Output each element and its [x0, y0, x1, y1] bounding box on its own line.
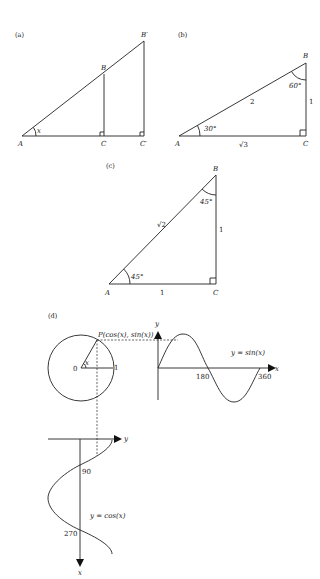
- triangle-30-60-90: [179, 63, 306, 136]
- angle-arc-b-45: [202, 189, 216, 195]
- vertex-a: A: [174, 140, 180, 148]
- angle-arc-x: [34, 128, 37, 137]
- sine-y-axis-label: y: [154, 320, 160, 328]
- vertex-c-prime: C′: [140, 140, 147, 148]
- cosine-x-axis-label: x: [78, 569, 82, 577]
- angle-b-label: 45°: [199, 198, 212, 206]
- panel-d-label: (d): [48, 312, 58, 320]
- right-angle-marker-c: [100, 132, 104, 136]
- radius-label: 1: [114, 364, 118, 372]
- trig-figure: (a) x A C C′ B B′ (b) 30° 60° 2 1 √3 A C…: [0, 0, 320, 579]
- triangle-ab-prime-c-prime: [22, 41, 144, 136]
- cosine-curve-label: y = cos(x): [89, 512, 126, 520]
- vertex-a: A: [17, 140, 23, 148]
- panel-d: (d) x 0 1 P(cos(x), sin(x)) y x 180 360 …: [48, 312, 279, 577]
- vertex-c: C: [213, 289, 219, 297]
- radius-to-p: [81, 340, 97, 368]
- vertex-b-prime: B′: [140, 31, 148, 39]
- angle-arc-60: [292, 72, 307, 81]
- point-p-label: P(cos(x), sin(x)): [97, 331, 154, 339]
- panel-c-label: (c): [106, 162, 115, 170]
- angle-arc-30: [198, 126, 201, 137]
- angle-x-label: x: [37, 127, 41, 135]
- sine-curve-label: y = sin(x): [230, 349, 265, 357]
- opposite-label: 1: [309, 98, 313, 106]
- cosine-tick-90: 90: [82, 468, 91, 476]
- angle-arc-a-45: [124, 269, 130, 284]
- panel-b: (b) 30° 60° 2 1 √3 A C B: [174, 31, 313, 149]
- triangle-45-45-90: [109, 175, 216, 284]
- sine-x-axis-label: x: [275, 365, 279, 373]
- angle-60-label: 60°: [289, 82, 301, 90]
- right-angle-marker-c-prime: [140, 132, 144, 136]
- vertex-b: B: [100, 64, 106, 72]
- cosine-tick-270: 270: [64, 530, 77, 538]
- vertex-c: C: [101, 140, 107, 148]
- adjacent-label: √3: [239, 141, 248, 149]
- vertex-c: C: [303, 140, 309, 148]
- hypotenuse-label: √2: [157, 221, 166, 229]
- right-angle-marker: [300, 130, 306, 136]
- panel-a: (a) x A C C′ B B′: [15, 31, 148, 148]
- vertex-b: B: [212, 165, 218, 173]
- right-angle-marker: [210, 278, 216, 284]
- panel-b-label: (b): [178, 31, 188, 39]
- vertex-b: B: [302, 52, 308, 60]
- adjacent-label: 1: [160, 289, 164, 297]
- sine-tick-360: 360: [258, 373, 271, 381]
- vertex-a: A: [104, 289, 110, 297]
- angle-30-label: 30°: [204, 125, 216, 133]
- panel-a-label: (a): [15, 31, 24, 39]
- angle-a-label: 45°: [130, 273, 143, 281]
- origin-label: 0: [73, 365, 77, 373]
- cosine-y-axis-label: y: [123, 435, 129, 443]
- hypotenuse-label: 2: [250, 98, 254, 106]
- panel-c: (c) 45° 45° √2 1 1 A C B: [104, 162, 223, 297]
- angle-x-label: x: [85, 359, 89, 367]
- opposite-label: 1: [219, 226, 223, 234]
- sine-tick-180: 180: [196, 373, 209, 381]
